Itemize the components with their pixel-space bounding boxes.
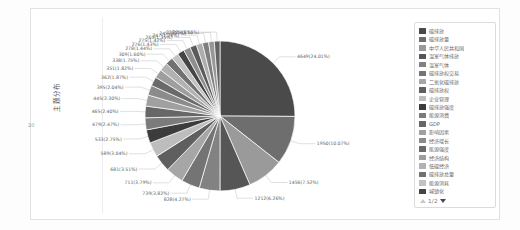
- pie-slices-group[interactable]: [145, 41, 295, 191]
- pie-leader-line: [122, 99, 147, 101]
- legend-rows[interactable]: 碳排放碳排放量中华人民共和国温室气体排放温室气体碳排放权交易二氧化碳排放碳排放权…: [419, 27, 492, 195]
- pie-slice-label: 445(2.30%): [93, 96, 120, 101]
- legend-item-label: 经济结构: [429, 154, 449, 162]
- legend-item[interactable]: 能源消费: [419, 111, 492, 119]
- legend-swatch-icon: [419, 37, 426, 42]
- pie-leader-line: [167, 41, 187, 49]
- legend-swatch-icon: [419, 113, 426, 118]
- legend-item[interactable]: 经济结构: [419, 154, 492, 162]
- legend-item-label: 温室气体排放: [429, 52, 459, 60]
- legend-item[interactable]: 碳排放权交易: [419, 69, 492, 77]
- pie-slice-label: 309(1.60%): [119, 52, 146, 57]
- pie-slice-label: 589(3.04%): [101, 151, 128, 156]
- legend-item[interactable]: 碳排放量: [419, 35, 492, 43]
- legend-swatch-icon: [419, 62, 426, 67]
- legend-item-label: 经济增长: [429, 137, 449, 145]
- legend-swatch-icon: [419, 189, 426, 194]
- legend-item[interactable]: 中华人民共和国: [419, 44, 492, 52]
- pie-leader-line: [123, 137, 148, 140]
- pie-leader-line: [171, 185, 191, 193]
- legend-item[interactable]: GDP: [419, 120, 492, 128]
- pie-leader-line: [129, 150, 153, 154]
- legend-item-label: 能源消费: [429, 111, 449, 119]
- legend-swatch-icon: [419, 172, 426, 177]
- pie-chart-stage: 4649(24.01%)1950(10.07%)1456(7.52%)1212(…: [30, 8, 430, 220]
- legend-item[interactable]: 能源消耗: [419, 179, 492, 187]
- legend-item-label: 能源强度: [429, 145, 449, 153]
- screenshot-root: 主题分布 20 4649(24.01%)1950(10.07%)1456(7.5…: [0, 0, 520, 230]
- pie-leader-line: [120, 111, 145, 112]
- pie-leader-line: [192, 190, 209, 199]
- pie-slice-label: 828(4.27%): [164, 197, 191, 202]
- legend-item-label: 碳排放量: [429, 35, 449, 43]
- legend-item[interactable]: 温室气体: [419, 61, 492, 69]
- legend-swatch-icon: [419, 121, 426, 126]
- legend-pager[interactable]: 1/2: [420, 198, 446, 204]
- pie-leader-line: [160, 44, 181, 52]
- legend-item[interactable]: 碳排放总量: [419, 170, 492, 178]
- legend-item-label: 碳排放强度: [429, 103, 454, 111]
- legend-item[interactable]: 低碳经济: [419, 162, 492, 170]
- legend-item[interactable]: 碳排放: [419, 27, 492, 35]
- pie-leader-line: [235, 189, 253, 198]
- legend-swatch-icon: [419, 163, 426, 168]
- legend-item[interactable]: 温室气体排放: [419, 52, 492, 60]
- pie-leader-line: [266, 175, 288, 182]
- legend-swatch-icon: [419, 54, 426, 59]
- pie-slice-label: 1212(6.26%): [255, 196, 285, 201]
- legend-item-label: 碳排放总量: [429, 170, 454, 178]
- legend-swatch-icon: [419, 96, 426, 101]
- pie-leader-line: [121, 124, 146, 125]
- legend-item-label: 温室气体: [429, 61, 449, 69]
- legend-item-label: 企业管理: [429, 95, 449, 103]
- legend-item-label: 影响因素: [429, 128, 449, 136]
- legend-item-label: 碳排放权交易: [429, 69, 459, 77]
- legend-swatch-icon: [419, 146, 426, 151]
- chart-legend[interactable]: 碳排放碳排放量中华人民共和国温室气体排放温室气体碳排放权交易二氧化碳排放碳排放权…: [414, 22, 496, 208]
- pie-slice-label: 338(1.75%): [112, 58, 139, 63]
- pie-leader-line: [139, 163, 162, 169]
- triangle-down-icon[interactable]: [440, 199, 446, 203]
- pie-slice-label: 4649(24.01%): [297, 54, 330, 59]
- pie-chart-svg[interactable]: 4649(24.01%)1950(10.07%)1456(7.52%)1212(…: [30, 8, 430, 220]
- legend-swatch-icon: [419, 155, 426, 160]
- legend-item[interactable]: 碳排放权: [419, 86, 492, 94]
- legend-item-label: 二氧化碳排放: [429, 78, 459, 86]
- legend-swatch-icon: [419, 180, 426, 185]
- legend-item-label: 低碳经济: [429, 162, 449, 170]
- pie-slice-label: 278(1.44%): [125, 46, 152, 51]
- legend-item[interactable]: 城镇化: [419, 187, 492, 195]
- pie-leader-line: [291, 141, 316, 144]
- legend-page-indicator: 1/2: [428, 198, 438, 204]
- pie-slice-label: 351(1.82%): [106, 66, 133, 71]
- legend-item-label: GDP: [429, 120, 440, 128]
- legend-item-label: 能源消耗: [429, 179, 449, 187]
- legend-item[interactable]: 影响因素: [419, 128, 492, 136]
- legend-item-label: 碳排放: [429, 27, 444, 35]
- legend-item-label: 碳排放权: [429, 86, 449, 94]
- pie-leader-line: [154, 49, 175, 56]
- legend-swatch-icon: [419, 104, 426, 109]
- legend-item[interactable]: 企业管理: [419, 95, 492, 103]
- pie-leader-line: [153, 176, 175, 183]
- pie-slice-label: 225(1.16%): [172, 30, 199, 35]
- legend-item-label: 中华人民共和国: [429, 44, 464, 52]
- legend-item[interactable]: 碳排放强度: [419, 103, 492, 111]
- legend-item[interactable]: 二氧化碳排放: [419, 78, 492, 86]
- pie-slice-label: 395(2.04%): [97, 85, 124, 90]
- legend-item[interactable]: 经济增长: [419, 137, 492, 145]
- legend-swatch-icon: [419, 130, 426, 135]
- legend-swatch-icon: [419, 87, 426, 92]
- legend-swatch-icon: [419, 79, 426, 84]
- pie-slice[interactable]: [220, 41, 295, 116]
- pie-leader-line: [141, 61, 164, 67]
- legend-item[interactable]: 能源强度: [419, 145, 492, 153]
- pie-leader-line: [273, 57, 295, 63]
- triangle-up-icon[interactable]: [420, 199, 426, 203]
- legend-swatch-icon: [419, 28, 426, 33]
- pie-leader-line: [135, 69, 158, 74]
- legend-swatch-icon: [419, 71, 426, 76]
- pie-slice-label: 465(2.40%): [92, 109, 119, 114]
- legend-swatch-icon: [419, 138, 426, 143]
- pie-slice-label: 362(1.87%): [101, 75, 128, 80]
